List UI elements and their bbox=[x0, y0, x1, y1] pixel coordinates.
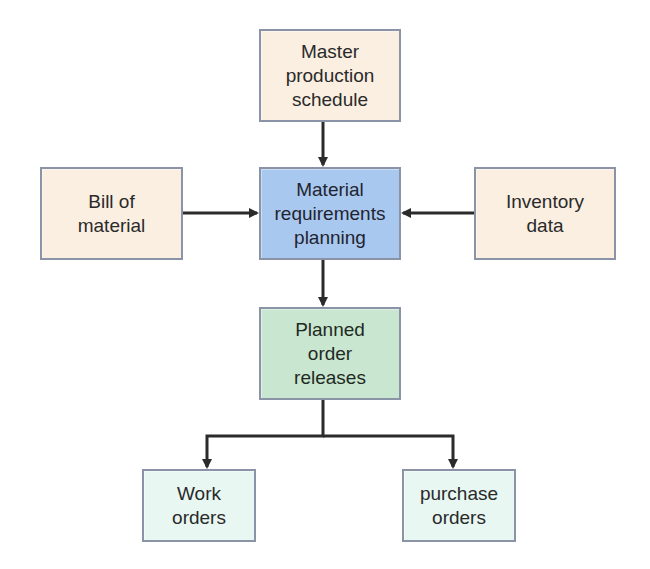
node-material-requirements-planning: Material requirements planning bbox=[259, 167, 401, 260]
node-purchase-orders: purchase orders bbox=[402, 469, 516, 542]
node-master-production-schedule: Master production schedule bbox=[259, 29, 401, 122]
mrp-diagram: Master production schedule Bill of mater… bbox=[0, 0, 650, 569]
node-label: purchase orders bbox=[420, 482, 498, 530]
node-label: Material requirements planning bbox=[275, 178, 386, 250]
node-planned-order-releases: Planned order releases bbox=[259, 307, 401, 400]
node-work-orders: Work orders bbox=[142, 469, 256, 542]
node-label: Bill of material bbox=[78, 190, 146, 238]
node-bill-of-material: Bill of material bbox=[40, 167, 183, 260]
node-label: Work orders bbox=[172, 482, 226, 530]
node-label: Planned order releases bbox=[294, 318, 366, 390]
node-label: Inventory data bbox=[506, 190, 584, 238]
node-label: Master production schedule bbox=[286, 40, 375, 112]
arrow-planned-to-work bbox=[207, 400, 323, 467]
arrow-planned-to-purchase bbox=[323, 436, 453, 467]
node-inventory-data: Inventory data bbox=[474, 167, 616, 260]
